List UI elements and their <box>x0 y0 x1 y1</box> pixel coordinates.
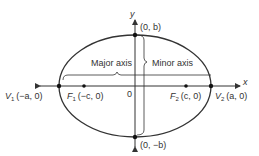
minor-axis-bracket <box>137 35 147 135</box>
y-axis: y <box>129 9 135 147</box>
focus-f1-point <box>82 84 86 88</box>
covertex-top-label: (0, b) <box>140 22 161 32</box>
covertex-top-point <box>133 33 137 37</box>
major-axis-label: Major axis <box>91 58 133 68</box>
x-axis-label: x <box>242 77 248 87</box>
focus-f2-point <box>184 84 188 88</box>
covertex-bottom-label: (0, −b) <box>140 140 166 150</box>
vertex-v2-label: V2(a, 0) <box>215 91 247 102</box>
y-axis-label: y <box>129 9 135 19</box>
focus-f2-label: F2(c, 0) <box>170 91 201 102</box>
vertex-v1-point <box>57 84 61 88</box>
major-axis-bracket <box>63 72 211 80</box>
vertex-v2-point <box>209 84 213 88</box>
ellipse-diagram: x y Major axis Minor axis V1(−a, 0) F1(−… <box>0 0 259 156</box>
covertex-bottom-point <box>133 135 137 139</box>
vertex-v1-label: V1(−a, 0) <box>5 91 43 102</box>
focus-f1-label: F1(−c, 0) <box>67 91 104 102</box>
minor-axis-label: Minor axis <box>152 58 194 68</box>
origin-label: 0 <box>127 89 132 99</box>
